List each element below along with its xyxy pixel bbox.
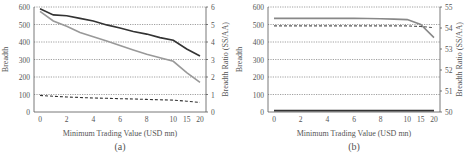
y-tick-label: 600 [253,3,265,12]
y-tick-label: 0 [260,108,264,117]
y-axis-label: Breadth [1,47,10,72]
y-right-tick-label: 5 [211,21,215,30]
chart-b: 0100200300400500600505152535455024681015… [234,0,468,156]
y-right-tick-label: 1 [211,91,215,100]
x-tick-label: 2 [65,115,69,124]
x-tick-label: 15 [183,115,191,124]
y-right-tick-label: 53 [445,45,453,54]
chart-a: 0100200300400500600012345602468101520Min… [0,0,234,156]
x-tick-label: 20 [196,115,204,124]
x-tick-label: 15 [417,115,425,124]
series-line [40,11,200,82]
x-tick-label: 6 [352,115,356,124]
x-tick-label: 2 [299,115,303,124]
x-tick-label: 10 [170,115,178,124]
y-tick-label: 100 [253,91,265,100]
y-right-tick-label: 50 [445,108,453,117]
x-tick-label: 4 [325,115,329,124]
y-tick-label: 500 [19,21,31,30]
y-axis-label: Breadth [235,47,244,72]
y-tick-label: 0 [26,108,30,117]
y-right-tick-label: 4 [211,38,215,47]
y-right-tick-label: 52 [445,66,453,75]
y-tick-label: 300 [253,56,265,65]
y-right-tick-label: 55 [445,3,453,12]
x-tick-label: 10 [404,115,412,124]
y-tick-label: 400 [19,38,31,47]
y-tick-label: 500 [253,21,265,30]
x-tick-label: 4 [91,115,95,124]
series-line [274,18,434,37]
y-tick-label: 100 [19,91,31,100]
x-tick-label: 6 [118,115,122,124]
series-line [274,26,434,28]
y-axis-right-label: Breadth Ratio (SS/AA) [221,22,230,97]
x-axis-label: Minimum Trading Value (USD mn) [63,129,178,138]
x-tick-label: 0 [38,115,42,124]
chart-svg: 0100200300400500600012345602468101520Min… [0,0,234,156]
x-tick-label: 8 [379,115,383,124]
figure-caption: (a) [114,141,125,153]
chart-svg: 0100200300400500600505152535455024681015… [234,0,468,156]
x-tick-label: 20 [430,115,438,124]
series-line [40,9,200,56]
y-tick-label: 300 [19,56,31,65]
x-axis-label: Minimum Trading Value (USD mn) [297,129,412,138]
y-right-tick-label: 2 [211,73,215,82]
y-axis-right-label: Breadth Ratio (SS/AA) [455,22,464,97]
y-right-tick-label: 54 [445,24,453,33]
x-tick-label: 0 [272,115,276,124]
series-line [40,95,200,102]
x-tick-label: 8 [145,115,149,124]
y-right-tick-label: 51 [445,87,453,96]
y-right-tick-label: 3 [211,56,215,65]
y-tick-label: 400 [253,38,265,47]
y-right-tick-label: 6 [211,3,215,12]
y-tick-label: 200 [253,73,265,82]
y-right-tick-label: 0 [211,108,215,117]
y-tick-label: 200 [19,73,31,82]
y-tick-label: 600 [19,3,31,12]
figure-caption: (b) [348,141,360,153]
